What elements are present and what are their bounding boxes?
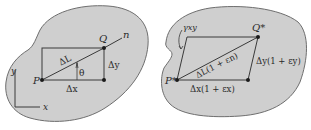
strain-diagram: P Q n ΔL θ Δx Δy y x P* Q* γxy ΔL(1 + εn… xyxy=(0,0,311,130)
label-delta-y: Δy xyxy=(108,60,120,70)
label-delta-x-deformed: Δx(1 + εx) xyxy=(190,84,235,94)
label-theta: θ xyxy=(79,68,84,78)
label-P-star: P* xyxy=(164,75,177,86)
label-n: n xyxy=(123,29,129,40)
point-Q-dot xyxy=(102,46,106,50)
label-Q-star: Q* xyxy=(252,22,265,33)
corner-dot xyxy=(102,78,106,82)
label-delta-x: Δx xyxy=(66,84,78,94)
corner-dot-deformed xyxy=(246,78,250,82)
point-P-dot xyxy=(40,78,44,82)
label-axis-x: x xyxy=(43,102,48,112)
undeformed-body: P Q n ΔL θ Δx Δy y x xyxy=(6,6,148,122)
deformed-body: P* Q* γxy ΔL(1 + εn) Δx(1 + εx) Δy(1 + ε… xyxy=(162,7,307,117)
label-delta-y-deformed: Δy(1 + εy) xyxy=(256,56,301,66)
label-axis-y: y xyxy=(10,66,17,76)
label-P: P xyxy=(32,75,40,86)
point-Q-star-dot xyxy=(256,35,260,39)
label-Q: Q xyxy=(99,33,107,44)
label-gamma-xy: γxy xyxy=(183,23,197,32)
